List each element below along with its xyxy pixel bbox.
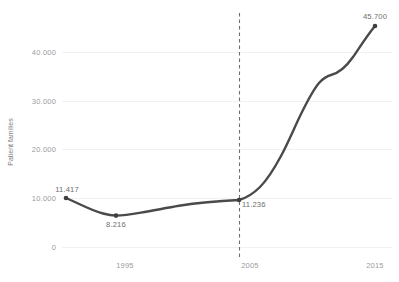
marker-2004 (237, 198, 242, 203)
data-label-8216: 8.216 (106, 220, 126, 229)
data-point-labels: 11.417 8.216 11.236 45.700 (55, 12, 387, 229)
data-line-patient-families (66, 26, 375, 216)
y-tick-label-20000: 20.000 (32, 145, 56, 154)
marker-2015 (373, 24, 378, 29)
y-tick-label-0: 0 (52, 243, 56, 252)
data-point-markers (64, 24, 378, 218)
y-tick-label-30000: 30.000 (32, 97, 56, 106)
data-label-11236: 11.236 (242, 200, 266, 209)
gridlines (62, 52, 392, 247)
x-tick-label-2015: 2015 (366, 261, 384, 270)
marker-1990 (64, 196, 69, 201)
x-axis-tick-labels: 1995 2005 2015 (116, 261, 384, 270)
chart-canvas: 40.000 30.000 20.000 10.000 0 1995 2005 … (0, 0, 399, 282)
y-axis-title: Patient families (7, 118, 14, 166)
y-tick-label-40000: 40.000 (32, 48, 56, 57)
y-tick-label-10000: 10.000 (32, 194, 56, 203)
marker-1994 (114, 213, 119, 218)
data-label-45700: 45.700 (363, 12, 387, 21)
y-axis-tick-labels: 40.000 30.000 20.000 10.000 0 (32, 48, 56, 252)
x-tick-label-1995: 1995 (116, 261, 134, 270)
data-label-11417: 11.417 (55, 185, 79, 194)
x-tick-label-2005: 2005 (241, 261, 259, 270)
line-chart: 40.000 30.000 20.000 10.000 0 1995 2005 … (0, 0, 399, 282)
